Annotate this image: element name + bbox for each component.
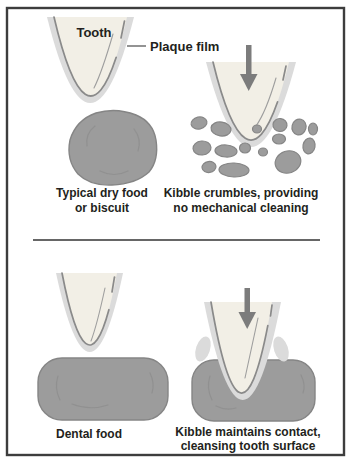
kibble-crumb: [272, 148, 304, 177]
kibble-crumb: [290, 118, 307, 137]
kibble-crumb: [309, 123, 318, 135]
kibble-crumb: [192, 140, 211, 156]
figure-canvas: Tooth Plaque film Typical dry food or bi…: [0, 0, 350, 462]
panel-bottom-left: Dental food: [38, 273, 168, 441]
caption-typical-food-line2: or biscuit: [75, 201, 129, 215]
kibble-crumb: [240, 143, 251, 153]
film-squish-flare: [270, 334, 291, 363]
kibble-crumb: [273, 134, 286, 144]
dental-food-bar: [38, 358, 168, 420]
caption-crumbles-line1: Kibble crumbles, providing: [164, 186, 319, 200]
kibble-crumb: [302, 137, 317, 155]
panel-top-right: Kibble crumbles, providing no mechanical…: [164, 45, 319, 215]
kibble-crumb: [201, 161, 216, 174]
caption-maintains-contact-line2: cleansing tooth surface: [181, 439, 316, 453]
caption-dental-food: Dental food: [56, 427, 122, 441]
caption-typical-food-line1: Typical dry food: [56, 186, 148, 200]
dental-diagram: Tooth Plaque film Typical dry food or bi…: [0, 0, 350, 462]
kibble-crumb: [272, 118, 287, 132]
kibble-crumb: [215, 144, 238, 158]
tooth-label: Tooth: [76, 25, 111, 40]
kibble-crumb: [190, 115, 208, 130]
caption-crumbles-line2: no mechanical cleaning: [173, 201, 308, 215]
kibble-crumb: [259, 148, 268, 156]
kibble-crumb: [219, 162, 249, 177]
kibble-crumb: [253, 125, 262, 133]
panel-bottom-right: Kibble maintains contact, cleansing toot…: [175, 288, 320, 453]
caption-maintains-contact-line1: Kibble maintains contact,: [175, 425, 320, 439]
plaque-film-label: Plaque film: [150, 39, 219, 54]
film-squish-flare: [192, 334, 213, 363]
